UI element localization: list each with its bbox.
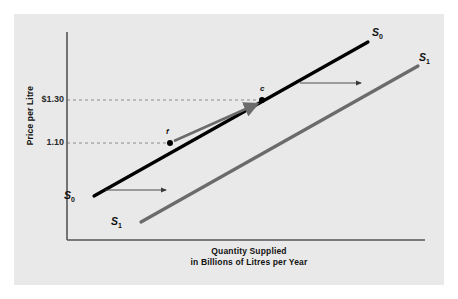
curve-label-s0-bottom-text: S: [64, 189, 71, 201]
point-marker-c: [259, 97, 265, 103]
curve-label-s1-bottom-sub: 1: [118, 222, 122, 229]
point-marker-f: [167, 140, 173, 146]
curve-label-s1-top-text: S: [419, 51, 426, 63]
y-axis-title: Price per Litre: [25, 64, 36, 168]
supply-curve-s1: [141, 66, 418, 222]
curve-label-s0-top-sub: 0: [379, 33, 383, 40]
curve-label-s1-bottom: S1: [111, 215, 122, 229]
figure-panel: $1.30 1.10 Price per Litre Quantity Supp…: [14, 14, 444, 285]
point-label-c: c: [260, 84, 264, 93]
curve-label-s0-top-text: S: [372, 26, 379, 38]
curve-label-s0-top: S0: [372, 26, 383, 40]
curve-label-s1-bottom-text: S: [111, 215, 118, 227]
movement-along-curve-arrow: [174, 104, 257, 141]
x-axis-title: Quantity Supplied in Billions of Litres …: [144, 246, 354, 268]
curve-label-s0-bottom: S0: [64, 189, 75, 203]
x-axis-title-line1: Quantity Supplied: [144, 246, 354, 257]
point-label-f: f: [166, 127, 169, 136]
curve-label-s1-top: S1: [419, 51, 430, 65]
x-axis-title-line2: in Billions of Litres per Year: [144, 257, 354, 268]
supply-curve-chart: [14, 14, 444, 285]
curve-label-s1-top-sub: 1: [426, 58, 430, 65]
curve-label-s0-bottom-sub: 0: [71, 196, 75, 203]
